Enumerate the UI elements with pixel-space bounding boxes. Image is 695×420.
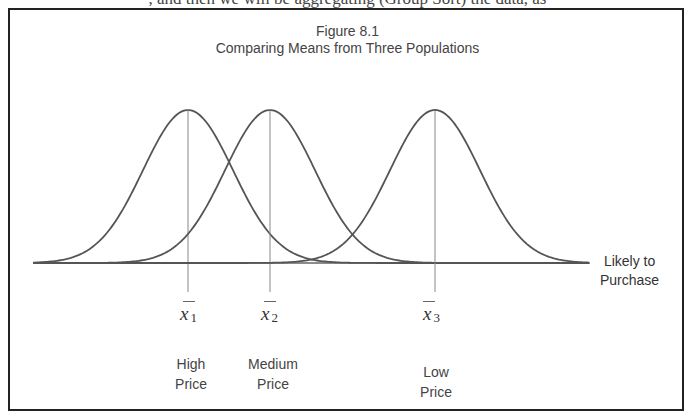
distribution-curve-1 <box>33 110 589 263</box>
mean-overbar-1 <box>183 301 195 302</box>
category-label-high-price: High Price <box>151 354 231 394</box>
x-axis-label: Likely to Purchase <box>600 252 659 290</box>
distribution-curve-2 <box>33 110 589 263</box>
category-label-medium-price: Medium Price <box>233 354 313 394</box>
mean-label-3: x3 <box>423 303 440 326</box>
category-label-low-price: Low Price <box>396 362 476 402</box>
mean-label-1: x1 <box>180 303 197 326</box>
mean-label-2: x2 <box>261 303 278 326</box>
mean-overbar-2 <box>264 301 276 302</box>
mean-overbar-3 <box>423 301 435 302</box>
distribution-plot <box>0 0 695 420</box>
distribution-curve-3 <box>33 110 589 263</box>
